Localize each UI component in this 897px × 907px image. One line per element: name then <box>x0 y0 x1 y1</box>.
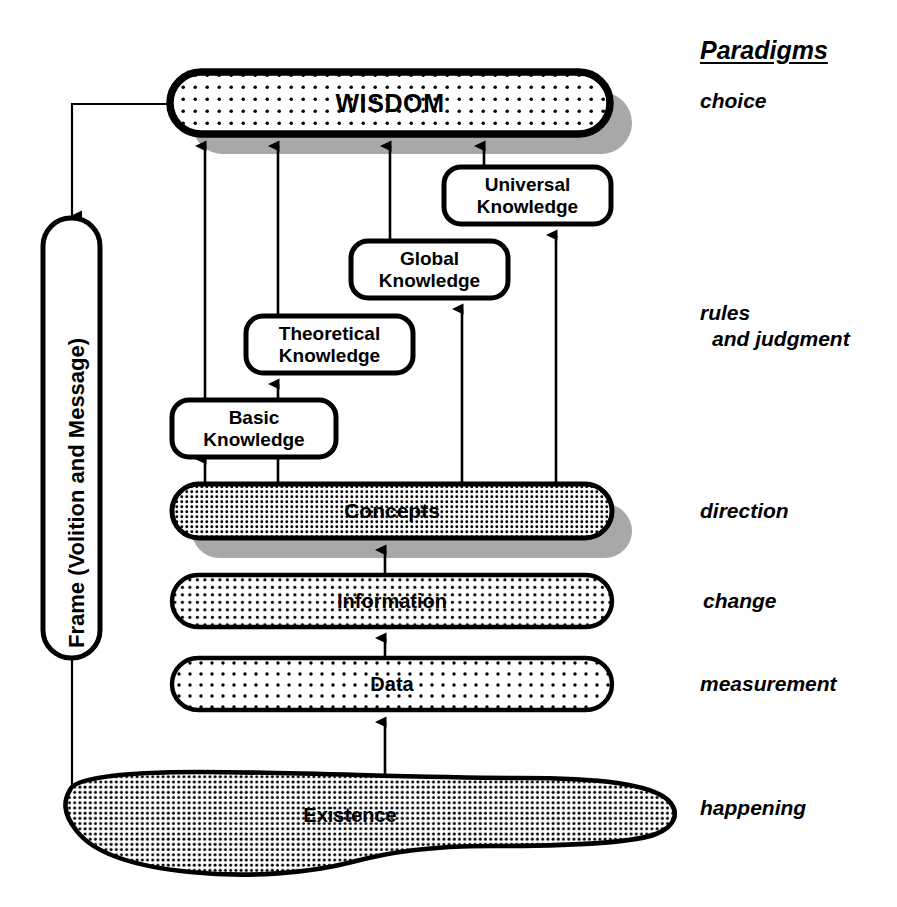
diagram-canvas: Paradigms choice rules and judgment dire… <box>0 0 897 907</box>
node-basic-knowledge-shape[interactable] <box>172 400 336 457</box>
arrow-wisdom-to-frame <box>72 104 170 216</box>
paradigm-label-change: change <box>703 588 777 614</box>
paradigms-heading: Paradigms <box>700 36 828 65</box>
paradigm-label-and-judgment: and judgment <box>712 326 850 352</box>
node-frame-label: Frame (Volition and Message) <box>64 338 90 648</box>
node-universal-knowledge-shape[interactable] <box>444 167 611 224</box>
node-wisdom-shape[interactable] <box>170 72 610 134</box>
node-concepts-shape[interactable] <box>172 484 612 538</box>
paradigm-label-happening: happening <box>700 795 806 821</box>
node-global-knowledge-shape[interactable] <box>351 241 508 298</box>
paradigm-label-choice: choice <box>700 88 767 114</box>
paradigm-label-direction: direction <box>700 498 789 524</box>
node-information-shape[interactable] <box>172 575 612 627</box>
node-layer <box>43 72 675 875</box>
paradigm-label-measurement: measurement <box>700 671 837 697</box>
node-data-shape[interactable] <box>172 658 612 710</box>
node-existence-shape[interactable] <box>65 772 674 875</box>
node-theoretical-knowledge-shape[interactable] <box>246 316 413 373</box>
diagram-graphics <box>0 0 897 907</box>
paradigm-label-rules: rules <box>700 300 750 326</box>
